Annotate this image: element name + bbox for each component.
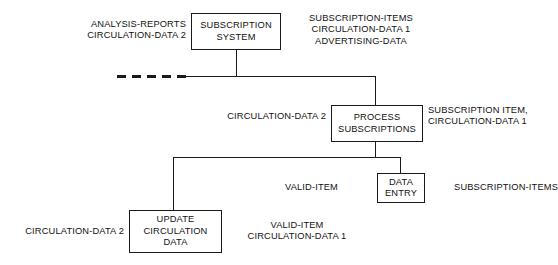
node-update-circulation-data-label: UPDATE CIRCULATION DATA xyxy=(144,214,208,248)
flow-label-process-subscriptions-outputs: SUBSCRIPTION ITEM, CIRCULATION-DATA 1 xyxy=(428,105,558,128)
node-data-entry[interactable]: DATA ENTRY xyxy=(377,173,425,203)
flow-label-update-circulation-data-inputs: CIRCULATION-DATA 2 xyxy=(0,226,124,237)
node-data-entry-label: DATA ENTRY xyxy=(385,177,417,200)
flow-label-data-entry-inputs: VALID-ITEM xyxy=(285,182,371,193)
node-process-subscriptions[interactable]: PROCESS SUBSCRIPTIONS xyxy=(331,105,423,142)
node-process-subscriptions-label: PROCESS SUBSCRIPTIONS xyxy=(338,112,416,135)
node-subscription-system[interactable]: SUBSCRIPTION SYSTEM xyxy=(191,13,281,50)
flow-label-subscription-system-outputs: SUBSCRIPTION-ITEMS CIRCULATION-DATA 1 AD… xyxy=(286,13,436,47)
node-subscription-system-label: SUBSCRIPTION SYSTEM xyxy=(200,20,272,43)
flow-label-update-circulation-data-outputs: VALID-ITEM CIRCULATION-DATA 1 xyxy=(229,220,365,243)
flow-label-process-subscriptions-inputs: CIRCULATION-DATA 2 xyxy=(180,111,326,122)
flow-label-subscription-system-inputs: ANALYSIS-REPORTS CIRCULATION-DATA 2 xyxy=(0,19,186,42)
node-update-circulation-data[interactable]: UPDATE CIRCULATION DATA xyxy=(129,210,222,253)
structure-chart-diagram: SUBSCRIPTION SYSTEM PROCESS SUBSCRIPTION… xyxy=(0,0,558,265)
flow-label-data-entry-outputs: SUBSCRIPTION-ITEMS xyxy=(430,182,558,193)
